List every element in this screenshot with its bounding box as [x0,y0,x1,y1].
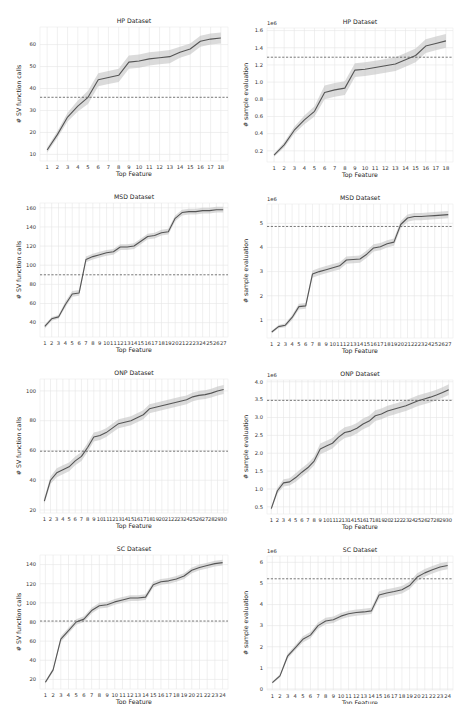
y-tick-label: 0.8 [255,96,263,102]
y-tick-label: 20 [29,507,36,513]
x-tick-label: 25 [431,341,438,347]
x-tick-label: 7 [107,164,110,170]
x-tick-label: 22 [411,341,418,347]
x-tick-label: 4 [303,165,307,171]
x-tick-label: 5 [71,340,74,346]
x-tick-label: 15 [412,165,419,171]
x-tick-label: 6 [77,340,80,346]
y-tick-label: 3 [260,622,263,628]
y-tick-label: 80 [29,281,36,287]
x-tick-label: 5 [301,693,304,699]
x-tick-label: 20 [172,340,179,346]
x-tick-label: 13 [166,164,173,170]
x-tick-label: 18 [443,165,450,171]
y-tick-label: 40 [29,657,36,663]
x-tick-label: 19 [406,693,413,699]
y-tick-label: 1 [260,665,263,671]
chart-msd-sample-evaluation: 1234512345678910111213141516171819202122… [235,176,470,352]
y-axis-label: # sample evaluation [242,63,250,127]
x-tick-label: 3 [59,692,62,698]
y-axis-label: # SV function calls [15,417,22,475]
x-tick-label: 10 [103,340,110,346]
x-tick-label: 23 [192,340,199,346]
x-tick-label: 6 [300,517,303,523]
chart-onp-sv-calls: 2040608010012345678910111213141516171819… [0,352,235,528]
x-tick-label: 26 [213,340,220,346]
x-tick-label: 23 [437,693,444,699]
x-tick-label: 2 [50,340,53,346]
x-tick-label: 19 [391,341,398,347]
x-tick-label: 22 [186,340,193,346]
x-tick-label: 17 [391,693,398,699]
chart-svg: 0.51.01.52.02.53.03.54.01234567891011121… [235,352,470,528]
x-tick-label: 6 [82,692,85,698]
y-tick-label: 1.6 [255,27,263,33]
chart-title: MSD Dataset [114,193,155,200]
x-tick-label: 6 [323,165,326,171]
y-tick-label: 40 [29,319,36,325]
x-tick-label: 7 [84,340,87,346]
chart-title: MSD Dataset [340,194,381,201]
y-tick-label: 100 [26,388,36,394]
x-tick-label: 5 [313,165,316,171]
x-tick-label: 4 [288,517,292,523]
x-tick-label: 17 [151,340,158,346]
x-tick-label: 2 [283,165,286,171]
y-axis-label: # SV function calls [15,593,22,651]
x-tick-label: 8 [324,693,327,699]
axis-offset-label: 1e6 [267,548,277,554]
y-tick-label: 60 [29,41,36,47]
x-tick-label: 17 [165,692,172,698]
x-tick-label: 25 [206,340,213,346]
x-tick-label: 18 [173,692,180,698]
y-tick-label: 1.0 [255,79,263,85]
x-tick-label: 14 [402,165,409,171]
x-tick-label: 13 [392,165,399,171]
y-tick-label: 4 [260,601,264,607]
chart-sc-sv-calls: 2040608010012014012345678910111213141516… [0,528,235,704]
x-tick-label: 3 [293,165,296,171]
x-tick-label: 4 [61,516,65,522]
y-axis-label: # SV function calls [15,241,22,299]
y-tick-label: 1.4 [255,45,264,51]
x-tick-label: 17 [433,165,440,171]
x-tick-label: 3 [57,340,60,346]
y-tick-label: 120 [26,581,36,587]
y-tick-label: 30 [29,107,36,113]
chart-msd-sv-calls: 4060801001201401601234567891011121314151… [0,176,235,352]
x-tick-label: 12 [382,165,389,171]
x-tick-label: 7 [316,693,319,699]
x-tick-label: 5 [75,692,78,698]
x-tick-label: 23 [212,692,219,698]
x-tick-label: 22 [204,692,211,698]
x-tick-label: 5 [297,341,300,347]
y-tick-label: 0.2 [255,148,263,154]
y-tick-label: 120 [26,243,36,249]
chart-title: SC Dataset [343,546,378,553]
y-tick-label: 40 [29,477,36,483]
x-tick-label: 2 [56,164,59,170]
x-tick-label: 18 [399,693,406,699]
chart-title: ONP Dataset [340,370,380,377]
x-tick-label: 1 [272,165,275,171]
x-tick-label: 16 [158,692,165,698]
x-tick-label: 7 [90,692,93,698]
x-tick-label: 8 [86,516,89,522]
y-axis-label: # sample evaluation [242,591,250,655]
chart-svg: 2040608010012014012345678910111213141516… [0,528,235,704]
x-tick-label: 4 [64,340,68,346]
x-tick-label: 1 [45,164,48,170]
x-tick-label: 6 [304,341,307,347]
x-tick-label: 20 [414,693,421,699]
x-tick-label: 10 [330,341,337,347]
y-axis-label: # sample evaluation [242,415,250,479]
x-tick-label: 7 [306,517,309,523]
x-tick-label: 1 [271,693,274,699]
x-tick-label: 1 [43,516,46,522]
chart-title: HP Dataset [343,18,378,25]
y-tick-label: 40 [29,85,36,91]
x-tick-label: 8 [312,517,315,523]
x-tick-label: 1 [44,692,47,698]
x-tick-label: 3 [284,341,287,347]
x-tick-label: 3 [282,517,285,523]
